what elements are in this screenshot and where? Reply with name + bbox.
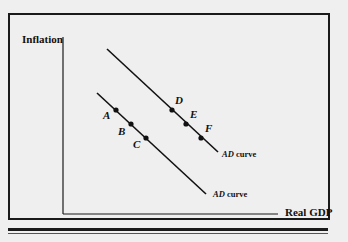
- point-e-marker: [183, 121, 188, 126]
- point-a-marker: [113, 107, 118, 112]
- point-e-label: E: [189, 108, 197, 120]
- ad-curve-diagram: Inflation Real GDP A B C D E F AD curve …: [0, 0, 348, 242]
- point-c-marker: [143, 135, 148, 140]
- ad-curve-upper-label-prefix: AD: [221, 149, 234, 159]
- point-d-label: D: [174, 94, 183, 106]
- point-d-marker: [169, 107, 174, 112]
- point-f-marker: [198, 135, 203, 140]
- ad-curve-upper-label: AD curve: [221, 149, 256, 159]
- x-axis-label: Real GDP: [285, 206, 333, 218]
- ad-curve-lower-label-prefix: AD: [212, 189, 225, 199]
- point-f-label: F: [204, 122, 213, 134]
- y-axis-label: Inflation: [22, 33, 63, 45]
- point-b-label: B: [117, 125, 125, 137]
- point-c-label: C: [133, 138, 141, 150]
- ad-curve-lower-label: AD curve: [212, 189, 247, 199]
- point-a-label: A: [102, 109, 110, 121]
- ad-curve-lower-label-suffix: curve: [225, 189, 248, 199]
- ad-curve-upper-label-suffix: curve: [234, 149, 257, 159]
- point-b-marker: [128, 121, 133, 126]
